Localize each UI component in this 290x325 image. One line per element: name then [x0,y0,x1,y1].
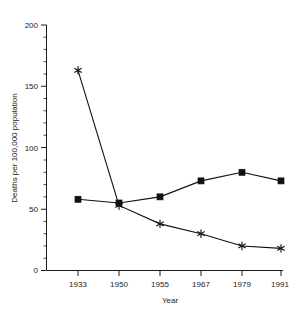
y-tick-label-50: 50 [29,205,38,214]
y-tick-label-100: 100 [25,144,39,153]
chart-figure: 0 50 100 150 200 1933 1950 1955 1967 197… [0,0,290,325]
x-tick-label-1950: 1950 [110,280,128,289]
y-tick-label-0: 0 [34,266,39,275]
x-tick-label-1967: 1967 [192,280,210,289]
y-tick-label-150: 150 [25,82,39,91]
x-tick-label-1955: 1955 [151,280,169,289]
data-point-marker [75,196,81,202]
series-line-square-series [78,172,281,203]
series-line-asterisk-series [78,70,281,248]
x-axis-ticks [78,271,281,277]
y-axis-title: Deaths per 100,000 population [10,93,19,202]
y-tick-label-200: 200 [25,21,39,30]
data-point-marker [74,66,81,74]
data-point-marker [278,178,284,184]
data-point-marker [156,220,163,228]
data-point-marker [157,194,163,200]
data-point-marker [197,229,204,237]
x-axis-title: Year [162,296,179,305]
line-chart-plot: 0 50 100 150 200 1933 1950 1955 1967 197… [0,0,290,325]
x-tick-label-1933: 1933 [69,280,87,289]
series-asterisk-series [74,66,284,252]
data-point-marker [198,178,204,184]
data-point-marker [239,169,245,175]
x-tick-label-1979: 1979 [233,280,251,289]
series-square-series [75,169,284,206]
x-tick-label-1991: 1991 [271,280,289,289]
series-layer [74,66,284,252]
